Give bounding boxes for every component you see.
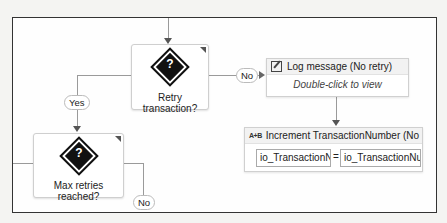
- edge-label-retry-yes: Yes: [64, 95, 90, 110]
- activity-header: Log message (No retry): [267, 59, 408, 75]
- activity-title: Increment TransactionNumber (No: [266, 128, 419, 143]
- connector-log-increment: [336, 95, 337, 121]
- activity-increment-transaction[interactable]: A+B Increment TransactionNumber (No io_T…: [244, 127, 423, 172]
- connector-max-no-vertical: [143, 163, 144, 196]
- activity-header: A+B Increment TransactionNumber (No: [245, 128, 422, 144]
- assign-to-field[interactable]: io_TransactionNu: [256, 149, 331, 167]
- decision-retry-transaction[interactable]: ? Retry transaction?: [131, 44, 209, 110]
- decision-label: Retry transaction?: [132, 92, 208, 114]
- activity-log-message[interactable]: Log message (No retry) Double-click to v…: [266, 58, 409, 97]
- arrow-head: [73, 126, 81, 132]
- edge-label-retry-no: No: [236, 68, 258, 83]
- activity-title: Log message (No retry): [287, 59, 392, 74]
- expand-corner-icon[interactable]: [115, 136, 121, 142]
- decision-max-retries[interactable]: ? Max retries reached?: [33, 133, 124, 198]
- connector-incoming-left: [13, 163, 33, 164]
- connector-retry-yes: [77, 75, 131, 76]
- activity-body-hint: Double-click to view: [267, 75, 408, 95]
- decision-label: Max retries reached?: [34, 180, 123, 202]
- connector-incoming: [168, 18, 169, 40]
- edge-label-max-no: No: [133, 195, 155, 210]
- assign-value-field[interactable]: io_TransactionNu: [340, 149, 421, 167]
- question-glyph: ?: [67, 146, 91, 160]
- question-glyph: ?: [158, 57, 182, 71]
- arrow-head: [332, 120, 340, 126]
- connector-max-no: [123, 163, 143, 164]
- arrow-head: [259, 71, 265, 79]
- assign-icon: A+B: [249, 128, 262, 143]
- log-message-icon: [271, 61, 282, 72]
- assign-operator: =: [333, 151, 339, 162]
- expand-corner-icon[interactable]: [200, 47, 206, 53]
